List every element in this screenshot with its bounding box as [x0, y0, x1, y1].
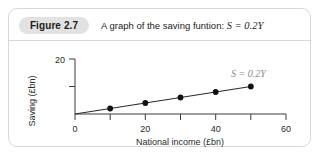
data-point	[107, 106, 113, 112]
series-annotation-label: S = 0.2Y	[231, 68, 267, 79]
y-tick-label-20: 20	[55, 55, 65, 65]
data-point	[178, 95, 184, 101]
figure-header: Figure 2.7 A graph of the saving funtion…	[9, 9, 310, 40]
x-tick-label-60: 60	[281, 124, 291, 134]
data-point	[142, 100, 148, 106]
figure-number-badge: Figure 2.7	[19, 17, 89, 34]
data-point	[213, 89, 219, 95]
x-tick-label-0: 0	[72, 124, 77, 134]
figure-card: Figure 2.7 A graph of the saving funtion…	[8, 8, 311, 147]
series-markers	[107, 84, 253, 112]
x-tick-label-40: 40	[211, 124, 221, 134]
chart-plot-area: Saving (£bn) 20 0 20 40 60	[9, 41, 312, 147]
y-axis-title: Saving (£bn)	[27, 75, 37, 126]
x-axis-title: National income (£bn)	[136, 137, 224, 147]
figure-title-equation: S = 0.2Y	[227, 20, 264, 31]
series-line-saving	[75, 87, 251, 115]
x-tick-label-20: 20	[140, 124, 150, 134]
data-point	[248, 84, 254, 90]
figure-title-text: A graph of the saving funtion:	[101, 20, 227, 31]
figure-title: A graph of the saving funtion: S = 0.2Y	[101, 17, 263, 34]
saving-function-chart: Saving (£bn) 20 0 20 40 60	[9, 41, 312, 147]
